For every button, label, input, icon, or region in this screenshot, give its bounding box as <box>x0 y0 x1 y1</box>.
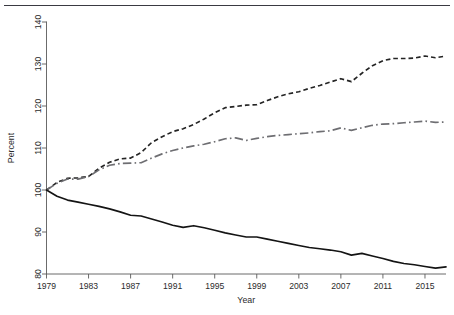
x-tick-label: 1995 <box>205 281 224 291</box>
x-tick-label: 2015 <box>415 281 434 291</box>
axis-labels-group: 8090100110120130140197919831987199119951… <box>6 15 435 305</box>
x-tick-label: 1979 <box>37 281 56 291</box>
x-tick-label: 2011 <box>374 281 393 291</box>
series-line-upper-dashed <box>47 56 447 190</box>
chart-figure: 8090100110120130140197919831987199119951… <box>0 0 454 315</box>
x-axis-title: Year <box>237 295 255 305</box>
x-tick-label: 2003 <box>289 281 308 291</box>
y-axis-title: Percent <box>6 132 16 163</box>
y-tick-label: 110 <box>33 141 43 155</box>
y-tick-label: 120 <box>33 99 43 114</box>
x-tick-label: 1987 <box>121 281 140 291</box>
series-group <box>47 56 447 268</box>
series-line-middle-dashdot <box>47 121 447 190</box>
y-tick-label: 90 <box>33 227 43 237</box>
axes-group <box>42 22 446 279</box>
series-line-lower-solid <box>47 190 447 268</box>
y-tick-label: 100 <box>33 183 43 198</box>
y-tick-label: 130 <box>33 57 43 72</box>
line-chart-canvas: 8090100110120130140197919831987199119951… <box>0 0 454 315</box>
x-tick-label: 2007 <box>331 281 350 291</box>
x-tick-label: 1983 <box>79 281 98 291</box>
x-tick-label: 1991 <box>163 281 182 291</box>
y-tick-label: 140 <box>33 15 43 30</box>
y-tick-label: 80 <box>33 269 43 279</box>
x-tick-label: 1999 <box>247 281 266 291</box>
